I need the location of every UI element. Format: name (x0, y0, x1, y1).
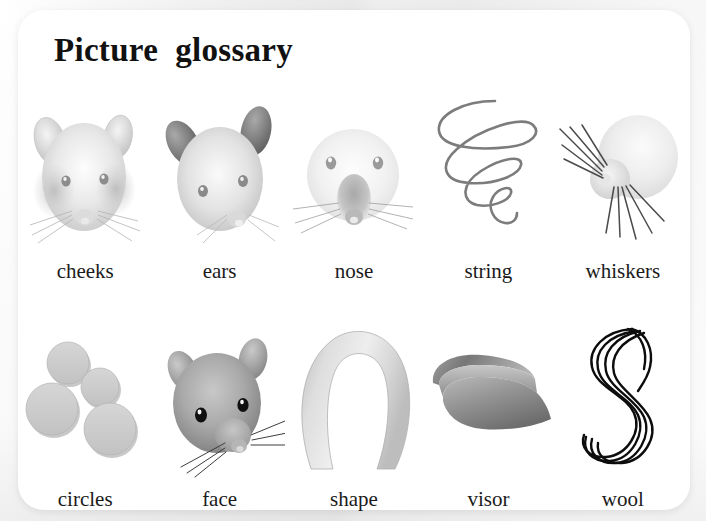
glossary-item[interactable]: visor (421, 305, 555, 510)
page-title: Picture glossary (54, 32, 293, 69)
glossary-item-label: circles (58, 489, 113, 510)
glossary-item[interactable]: whiskers (556, 72, 690, 282)
glossary-card: Picture glossary (18, 10, 690, 510)
mouse-whiskers-image (558, 95, 688, 255)
glossary-item[interactable]: wool (556, 305, 690, 510)
glossary-item[interactable]: shape (287, 305, 421, 510)
glossary-item[interactable]: face (152, 305, 286, 510)
horseshoe-arch-shape-image (289, 319, 419, 479)
sun-visor-image (423, 319, 553, 479)
glossary-row-top: cheeks (18, 72, 690, 282)
mouse-head-nose-image (289, 95, 419, 255)
glossary-item-label: face (202, 489, 237, 510)
glossary-item[interactable]: ears (152, 72, 286, 282)
glossary-item-label: ears (203, 261, 237, 282)
mouse-head-ears-image (155, 95, 285, 255)
squiggly-string-image (423, 95, 553, 255)
glossary-item-label: nose (335, 261, 374, 282)
glossary-item-label: whiskers (585, 261, 660, 282)
glossary-item[interactable]: nose (287, 72, 421, 282)
glossary-item-label: visor (467, 489, 509, 510)
four-gray-circles-image (20, 319, 150, 479)
glossary-item-label: string (465, 261, 513, 282)
glossary-item[interactable]: string (421, 72, 555, 282)
glossary-item[interactable]: circles (18, 305, 152, 510)
glossary-item-label: cheeks (57, 261, 114, 282)
mouse-head-cheeks-image (20, 95, 150, 255)
mouse-face-image (155, 319, 285, 479)
glossary-item-label: shape (330, 489, 378, 510)
coiled-wool-yarn-image (558, 319, 688, 479)
glossary-item-label: wool (602, 489, 644, 510)
glossary-row-bottom: circles (18, 305, 690, 510)
glossary-item[interactable]: cheeks (18, 72, 152, 282)
